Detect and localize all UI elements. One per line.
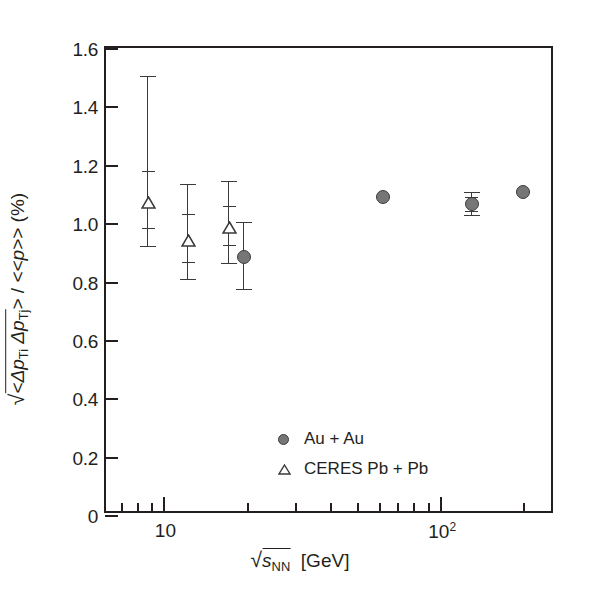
x-minor-tick-90 bbox=[428, 503, 430, 512]
x-minor-tick-70 bbox=[397, 503, 399, 512]
y-tick-label-1.0: 1.0 bbox=[72, 214, 98, 236]
y-tick-0.4: 0.4 bbox=[105, 398, 118, 400]
x-minor-tick-7 bbox=[121, 503, 123, 512]
error-bar-line bbox=[147, 76, 148, 247]
y-label-sub-i: Ti bbox=[16, 348, 31, 358]
y-tick-label-0: 0 bbox=[88, 506, 98, 528]
outer-cap-upper bbox=[140, 76, 156, 77]
x-tick-label-10: 10 bbox=[155, 520, 176, 542]
legend-item-au-au: Au + Au bbox=[278, 424, 428, 454]
y-label-close: > bbox=[7, 298, 28, 309]
x-minor-tick-20 bbox=[247, 503, 249, 512]
y-tick-1.4: 1.4 bbox=[105, 106, 118, 108]
x-major-tick-100: 102 bbox=[440, 497, 442, 512]
y-tick-1.0: 1.0 bbox=[105, 223, 118, 225]
legend-label-ceres-pb-pb: CERES Pb + Pb bbox=[304, 459, 428, 479]
outer-cap-lower bbox=[236, 289, 252, 290]
inner-cap-lower bbox=[465, 211, 478, 212]
outer-cap-upper bbox=[236, 222, 252, 223]
x-tick-exponent: 2 bbox=[449, 520, 456, 534]
x-major-tick-10: 10 bbox=[163, 497, 165, 512]
y-axis-title: √<ΔpTi ΔpTj> / <<p>> (%) bbox=[5, 192, 31, 404]
x-label-sub-nn: NN bbox=[272, 559, 291, 574]
x-label-s: s bbox=[262, 550, 272, 571]
y-tick-label-1.2: 1.2 bbox=[72, 156, 98, 178]
y-tick-1.6: 1.6 bbox=[105, 48, 118, 50]
marker-filled-circle bbox=[465, 197, 479, 211]
outer-cap-lower bbox=[221, 263, 237, 264]
x-tick-label-100: 102 bbox=[428, 520, 456, 543]
x-label-units: [GeV] bbox=[290, 550, 349, 571]
outer-cap-lower bbox=[464, 215, 480, 216]
y-tick-0.8: 0.8 bbox=[105, 282, 118, 284]
y-tick-label-0.8: 0.8 bbox=[72, 273, 98, 295]
legend-item-ceres-pb-pb: CERES Pb + Pb bbox=[278, 454, 428, 484]
marker-filled-circle bbox=[237, 250, 251, 264]
x-minor-tick-60 bbox=[379, 503, 381, 512]
chart-legend: Au + Au CERES Pb + Pb bbox=[278, 424, 428, 484]
outer-cap-upper bbox=[180, 184, 196, 185]
y-radical-sign: √ bbox=[5, 393, 28, 405]
y-tick-label-0.6: 0.6 bbox=[72, 331, 98, 353]
inner-cap-lower bbox=[223, 245, 236, 246]
y-tick-0.6: 0.6 bbox=[105, 340, 118, 342]
y-label-inner-second: Δp bbox=[7, 320, 28, 349]
y-label-divider: / <<p>> (%) bbox=[7, 192, 28, 298]
x-minor-tick-80 bbox=[413, 503, 415, 512]
y-tick-label-0.2: 0.2 bbox=[72, 448, 98, 470]
y-tick-label-1.6: 1.6 bbox=[72, 39, 98, 61]
chart-figure: √<ΔpTi ΔpTj> / <<p>> (%) √sNN [GeV] 00.2… bbox=[0, 0, 591, 597]
outer-cap-lower bbox=[140, 246, 156, 247]
outer-cap-upper bbox=[464, 192, 480, 193]
legend-label-au-au: Au + Au bbox=[304, 429, 364, 449]
x-minor-tick-50 bbox=[357, 503, 359, 512]
x-label-overbar: sNN bbox=[262, 548, 290, 574]
marker-open-triangle bbox=[181, 233, 196, 246]
inner-cap-upper bbox=[142, 171, 155, 172]
marker-filled-circle bbox=[376, 190, 390, 204]
y-label-sub-j: Tj bbox=[16, 309, 31, 320]
y-tick-1.2: 1.2 bbox=[105, 165, 118, 167]
outer-cap-upper bbox=[221, 181, 237, 182]
filled-circle-icon bbox=[278, 434, 304, 445]
error-bar-line bbox=[187, 184, 188, 279]
x-minor-tick-200 bbox=[523, 503, 525, 512]
x-minor-tick-9 bbox=[151, 503, 153, 512]
marker-filled-circle bbox=[516, 185, 530, 199]
x-minor-tick-40 bbox=[330, 503, 332, 512]
x-axis-title: √sNN [GeV] bbox=[251, 548, 350, 574]
inner-cap-lower bbox=[182, 262, 195, 263]
y-tick-label-0.4: 0.4 bbox=[72, 389, 98, 411]
y-label-overbar: <ΔpTi ΔpTj bbox=[5, 309, 31, 393]
y-tick-label-1.4: 1.4 bbox=[72, 97, 98, 119]
marker-open-triangle bbox=[222, 220, 237, 233]
inner-cap-lower bbox=[142, 228, 155, 229]
y-label-inner-open: <Δp bbox=[7, 359, 28, 393]
x-minor-tick-30 bbox=[295, 503, 297, 512]
x-radical-sign: √ bbox=[251, 548, 263, 571]
inner-cap-upper bbox=[182, 214, 195, 215]
y-tick-0.2: 0.2 bbox=[105, 457, 118, 459]
outer-cap-lower bbox=[180, 279, 196, 280]
y-tick-0: 0 bbox=[105, 515, 118, 517]
open-triangle-icon bbox=[278, 464, 304, 475]
plot-area: 00.20.40.60.81.01.21.41.6 10102 Au + Au … bbox=[104, 46, 553, 513]
x-minor-tick-8 bbox=[137, 503, 139, 512]
marker-open-triangle bbox=[141, 195, 156, 208]
inner-cap-upper bbox=[223, 206, 236, 207]
